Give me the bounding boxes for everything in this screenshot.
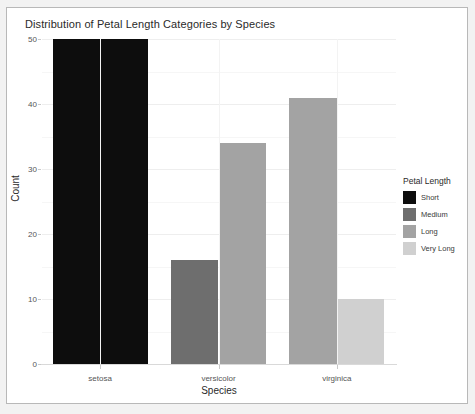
x-axis-tick-mark <box>337 365 338 369</box>
bar-virginica-very-long <box>337 299 385 364</box>
x-axis-tick-mark <box>219 365 220 369</box>
x-axis-tick-label-virginica: virginica <box>322 374 351 383</box>
chart-plot-root: Distribution of Petal Length Categories … <box>7 8 467 403</box>
bar-versicolor-long <box>219 143 267 364</box>
gridline-vertical <box>337 39 338 364</box>
legend-item-label: Long <box>421 227 438 236</box>
legend-swatch-icon <box>403 225 416 238</box>
legend-item-label: Medium <box>421 210 448 219</box>
gridline-vertical <box>100 39 101 364</box>
y-axis-title: Count <box>10 159 21 219</box>
legend: Petal Length ShortMediumLongVery Long <box>403 176 465 258</box>
legend-item-very-long[interactable]: Very Long <box>403 241 465 255</box>
y-axis-tick-label: 30 <box>28 165 37 174</box>
legend-swatch-icon <box>403 242 416 255</box>
x-axis-title: Species <box>41 385 397 396</box>
legend-item-medium[interactable]: Medium <box>403 207 465 221</box>
x-axis-tick-label-versicolor: versicolor <box>201 374 235 383</box>
legend-items: ShortMediumLongVery Long <box>403 190 465 255</box>
y-axis-tick-mark <box>38 169 41 170</box>
plot-panel <box>41 39 396 364</box>
bar-virginica-long <box>289 98 337 365</box>
y-axis-tick-label: 10 <box>28 295 37 304</box>
legend-swatch-icon <box>403 208 416 221</box>
y-axis-tick-label: 0 <box>33 360 37 369</box>
x-axis-tick-label-setosa: setosa <box>88 374 112 383</box>
x-axis-tick-mark <box>100 365 101 369</box>
legend-item-short[interactable]: Short <box>403 190 465 204</box>
page-title: Distribution of Petal Length Categories … <box>25 18 275 30</box>
y-axis-line <box>41 39 42 365</box>
y-axis-tick-label: 50 <box>28 35 37 44</box>
legend-item-label: Very Long <box>421 244 455 253</box>
y-axis-tick-mark <box>38 299 41 300</box>
bar-versicolor-medium <box>171 260 219 364</box>
gridline-vertical <box>219 39 220 364</box>
screenshot-root: Distribution of Petal Length Categories … <box>0 0 475 414</box>
y-axis-tick-mark <box>38 39 41 40</box>
y-axis-tick-mark <box>38 234 41 235</box>
y-axis-tick-mark <box>38 364 41 365</box>
legend-swatch-icon <box>403 191 416 204</box>
legend-item-long[interactable]: Long <box>403 224 465 238</box>
y-axis-tick-label: 40 <box>28 100 37 109</box>
legend-title: Petal Length <box>403 176 465 186</box>
chart-window-frame: Distribution of Petal Length Categories … <box>6 7 468 404</box>
y-axis-tick-mark <box>38 104 41 105</box>
y-axis-tick-label: 20 <box>28 230 37 239</box>
legend-item-label: Short <box>421 193 439 202</box>
